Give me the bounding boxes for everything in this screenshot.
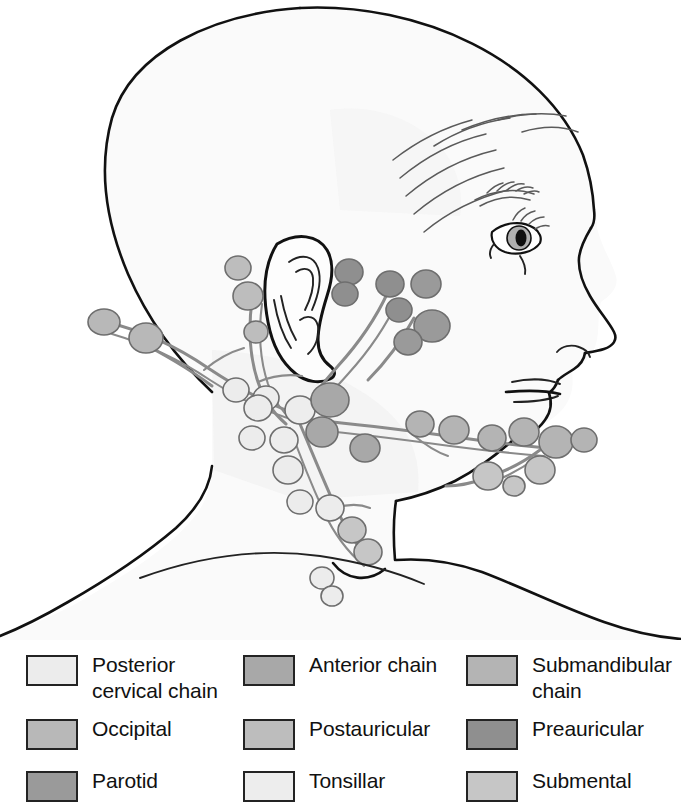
legend: Posterior cervical chain Anterior chain … bbox=[0, 640, 681, 810]
anatomy-illustration bbox=[0, 0, 681, 640]
legend-swatch-anterior-chain bbox=[243, 655, 295, 686]
legend-swatch-submandibular-chain bbox=[466, 655, 518, 686]
legend-item-anterior-chain[interactable]: Anterior chain bbox=[233, 652, 460, 686]
legend-label-posterior-cervical-chain: Posterior cervical chain bbox=[92, 652, 218, 704]
legend-label-submandibular-chain: Submandibular chain bbox=[532, 652, 672, 704]
legend-swatch-preauricular bbox=[466, 719, 518, 750]
legend-item-preauricular[interactable]: Preauricular bbox=[460, 716, 681, 750]
legend-swatch-submental bbox=[466, 771, 518, 802]
lymph-node-figure: Posterior cervical chain Anterior chain … bbox=[0, 0, 681, 810]
legend-item-submandibular-chain[interactable]: Submandibular chain bbox=[460, 652, 681, 704]
legend-row: Parotid Tonsillar Submental bbox=[0, 768, 681, 810]
legend-swatch-posterior-cervical-chain bbox=[26, 655, 78, 686]
legend-swatch-occipital bbox=[26, 719, 78, 750]
legend-item-parotid[interactable]: Parotid bbox=[0, 768, 233, 802]
legend-label-preauricular: Preauricular bbox=[532, 716, 644, 742]
legend-swatch-tonsillar bbox=[243, 771, 295, 802]
legend-label-anterior-chain: Anterior chain bbox=[309, 652, 437, 678]
legend-swatch-parotid bbox=[26, 771, 78, 802]
legend-item-occipital[interactable]: Occipital bbox=[0, 716, 233, 750]
legend-label-submental: Submental bbox=[532, 768, 632, 794]
legend-swatch-postauricular bbox=[243, 719, 295, 750]
legend-label-tonsillar: Tonsillar bbox=[309, 768, 385, 794]
legend-item-submental[interactable]: Submental bbox=[460, 768, 681, 802]
node-group-submental bbox=[473, 456, 555, 496]
legend-row: Occipital Postauricular Preauricular bbox=[0, 716, 681, 766]
legend-row: Posterior cervical chain Anterior chain … bbox=[0, 652, 681, 714]
legend-item-postauricular[interactable]: Postauricular bbox=[233, 716, 460, 750]
legend-item-tonsillar[interactable]: Tonsillar bbox=[233, 768, 460, 802]
legend-label-occipital: Occipital bbox=[92, 716, 172, 742]
legend-label-parotid: Parotid bbox=[92, 768, 158, 794]
legend-item-posterior-cervical-chain[interactable]: Posterior cervical chain bbox=[0, 652, 233, 704]
head-neck-diagram bbox=[0, 0, 681, 640]
legend-label-postauricular: Postauricular bbox=[309, 716, 430, 742]
